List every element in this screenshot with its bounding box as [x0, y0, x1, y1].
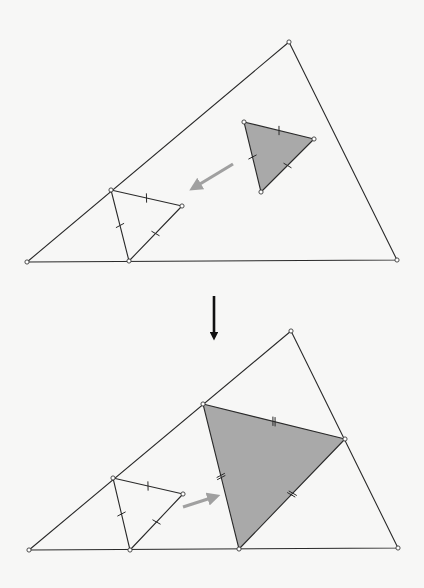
- vertex-point: [237, 547, 241, 551]
- vertex-point: [27, 548, 31, 552]
- vertex-point: [259, 190, 263, 194]
- vertex-point: [343, 437, 347, 441]
- geometry-diagram: [0, 0, 424, 588]
- vertex-point: [201, 402, 205, 406]
- vertex-point: [289, 329, 293, 333]
- move-arrow-icon: [195, 164, 233, 187]
- diagram-canvas: [0, 0, 424, 588]
- vertex-point: [181, 492, 185, 496]
- vertex-point: [180, 204, 184, 208]
- panel-after: [27, 329, 400, 552]
- vertex-point: [242, 120, 246, 124]
- big-triangle: [27, 42, 397, 262]
- shaded-triangle: [203, 404, 345, 549]
- shaded-triangle: [244, 122, 314, 192]
- vertex-point: [111, 476, 115, 480]
- panel-before: [25, 40, 399, 264]
- small-triangle: [111, 190, 182, 261]
- vertex-point: [395, 258, 399, 262]
- vertex-point: [312, 137, 316, 141]
- move-arrow-icon: [183, 497, 214, 507]
- congruence-tick: [152, 520, 160, 525]
- small-triangle: [113, 478, 183, 550]
- arrow-left-down-icon: [195, 164, 233, 187]
- vertex-point: [127, 259, 131, 263]
- congruence-tick: [151, 231, 159, 236]
- arrow-right-up-icon: [183, 497, 214, 507]
- vertex-point: [287, 40, 291, 44]
- vertex-point: [25, 260, 29, 264]
- vertex-point: [128, 548, 132, 552]
- vertex-point: [396, 546, 400, 550]
- vertex-point: [109, 188, 113, 192]
- triangle-outline: [27, 42, 397, 262]
